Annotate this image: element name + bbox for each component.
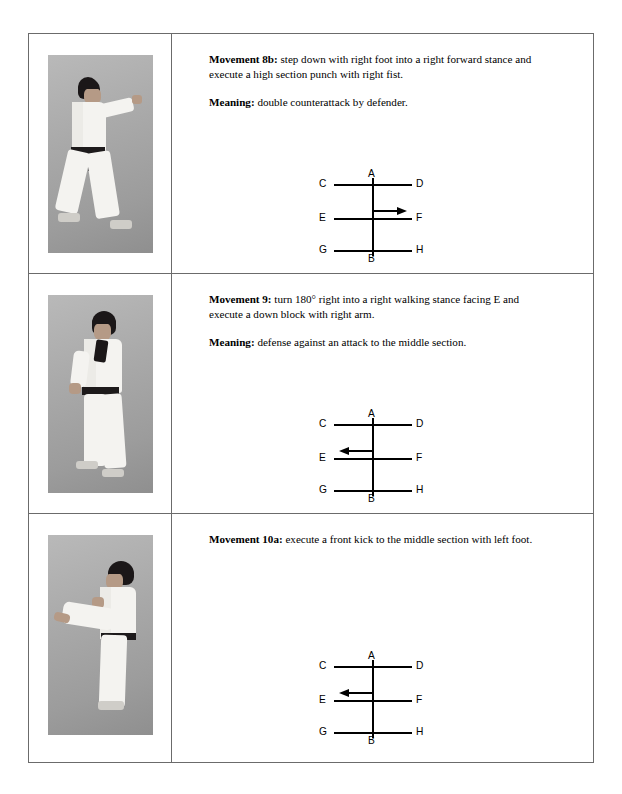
table-row: Movement 8b: step down with right foot i… (29, 34, 593, 274)
diagram-label-d: D (416, 419, 423, 429)
diagram-label-e: E (319, 695, 326, 705)
movement-paragraph: Movement 9: turn 180° right into a right… (209, 292, 545, 322)
diagram-label-a: A (368, 651, 375, 661)
diagram-line-ab (372, 418, 374, 496)
diagram-label-c: C (319, 419, 326, 429)
photo-cell (29, 514, 172, 762)
arrow-head (339, 447, 349, 455)
diagram-label-h: H (416, 727, 423, 737)
movement-label: Movement 8b: (209, 53, 278, 65)
movement-photo (48, 55, 153, 253)
diagram-label-e: E (319, 453, 326, 463)
meaning-text: double counterattack by defender. (255, 96, 408, 108)
diagram-label-d: D (416, 661, 423, 671)
arrow-shaft (347, 450, 373, 452)
document-page: Movement 8b: step down with right foot i… (0, 0, 622, 794)
instruction-cell: Movement 8b: step down with right foot i… (172, 34, 593, 273)
diagram-label-f: F (416, 695, 422, 705)
meaning-label: Meaning: (209, 336, 255, 348)
direction-diagram: A B C D E F G H (317, 414, 429, 498)
diagram-label-g: G (319, 485, 327, 495)
karateka-front-kick-figure (48, 535, 153, 735)
movement-text: execute a front kick to the middle secti… (283, 533, 533, 545)
diagram-label-a: A (368, 409, 375, 419)
movement-paragraph: Movement 10a: execute a front kick to th… (209, 532, 545, 547)
diagram-label-c: C (319, 661, 326, 671)
photo-cell (29, 34, 172, 273)
diagram-label-f: F (416, 453, 422, 463)
movement-label: Movement 10a: (209, 533, 283, 545)
photo-cell (29, 274, 172, 513)
instruction-cell: Movement 10a: execute a front kick to th… (172, 514, 593, 762)
movement-photo (48, 295, 153, 493)
table-row: Movement 9: turn 180° right into a right… (29, 274, 593, 514)
arrow-head (397, 207, 407, 215)
karateka-walking-stance-down-block-figure (48, 295, 153, 493)
meaning-text: defense against an attack to the middle … (255, 336, 467, 348)
direction-arrow-left-icon (339, 447, 373, 455)
movement-paragraph: Movement 8b: step down with right foot i… (209, 52, 545, 82)
meaning-paragraph: Meaning: defense against an attack to th… (209, 335, 545, 350)
diagram-label-f: F (416, 213, 422, 223)
diagram-label-c: C (319, 179, 326, 189)
diagram-label-a: A (368, 169, 375, 179)
instruction-cell: Movement 9: turn 180° right into a right… (172, 274, 593, 513)
direction-diagram: A B C D E F G H (317, 656, 429, 740)
diagram-label-g: G (319, 727, 327, 737)
movement-table: Movement 8b: step down with right foot i… (28, 33, 594, 763)
karateka-forward-stance-punch-figure (48, 55, 153, 253)
diagram-label-g: G (319, 245, 327, 255)
meaning-label: Meaning: (209, 96, 255, 108)
arrow-shaft (347, 692, 373, 694)
diagram-label-e: E (319, 213, 326, 223)
movement-photo (48, 535, 153, 735)
diagram-label-h: H (416, 485, 423, 495)
diagram-label-b: B (368, 494, 375, 504)
table-row: Movement 10a: execute a front kick to th… (29, 514, 593, 762)
direction-diagram: A B C D E F G H (317, 174, 429, 258)
movement-label: Movement 9: (209, 293, 272, 305)
diagram-line-ab (372, 178, 374, 256)
diagram-label-h: H (416, 245, 423, 255)
diagram-label-b: B (368, 254, 375, 264)
diagram-label-b: B (368, 736, 375, 746)
direction-arrow-right-icon (373, 207, 407, 215)
direction-arrow-left-icon (339, 689, 373, 697)
arrow-head (339, 689, 349, 697)
diagram-label-d: D (416, 179, 423, 189)
arrow-shaft (373, 210, 399, 212)
meaning-paragraph: Meaning: double counterattack by defende… (209, 95, 545, 110)
diagram-line-ab (372, 660, 374, 738)
